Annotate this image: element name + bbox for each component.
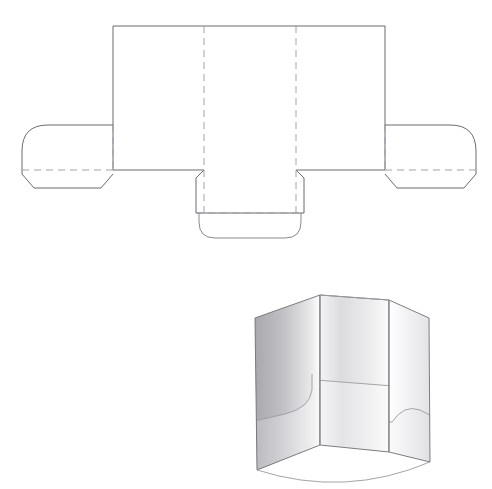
render-center-panel	[316, 295, 393, 462]
folded-folder-illustration	[0, 262, 492, 489]
dieline-background	[0, 0, 492, 270]
dieline-drawing	[0, 0, 492, 270]
render-right-panel	[385, 300, 436, 472]
artwork-canvas	[0, 0, 492, 489]
